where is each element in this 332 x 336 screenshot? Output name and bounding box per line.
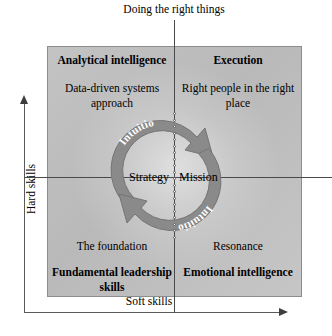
spine-dot bbox=[173, 138, 176, 141]
spine-dot bbox=[173, 184, 176, 187]
spine-dot bbox=[173, 216, 176, 219]
spine-dot bbox=[173, 203, 176, 206]
spine-dot bbox=[173, 190, 176, 193]
y-axis-label: Hard skills bbox=[25, 144, 37, 234]
quadrant-top-left-description: Data-driven systems approach bbox=[50, 81, 174, 112]
quadrant-top-right-title: Execution bbox=[176, 53, 300, 69]
spine-dot bbox=[173, 119, 176, 122]
quadrant-top-right: Execution Right people in the right plac… bbox=[176, 53, 300, 112]
spine-dot bbox=[173, 223, 176, 226]
x-axis-arrow-icon bbox=[279, 308, 288, 316]
spine-dot bbox=[173, 171, 176, 174]
spine-dot bbox=[173, 132, 176, 135]
spine-dot bbox=[173, 145, 176, 148]
spine-dot bbox=[173, 125, 176, 128]
spine-dot bbox=[173, 197, 176, 200]
dotted-spine bbox=[170, 112, 179, 239]
top-caption: Doing the right things bbox=[89, 3, 259, 15]
spine-dot bbox=[173, 151, 176, 154]
spine-dot bbox=[173, 112, 176, 115]
spine-dot bbox=[173, 158, 176, 161]
spine-dot bbox=[173, 236, 176, 239]
cycle-arrow-upper bbox=[111, 121, 213, 203]
diagram-canvas: Doing the right things Hard skills Soft … bbox=[0, 0, 332, 336]
quadrant-bottom-right-description: Resonance bbox=[176, 239, 300, 255]
x-axis-line bbox=[24, 312, 280, 313]
quadrant-bottom-left: The foundation Fundamental leadership sk… bbox=[50, 239, 174, 296]
quadrant-bottom-right-title: Emotional intelligence bbox=[176, 265, 300, 281]
quadrant-top-left-title: Analytical intelligence bbox=[50, 53, 174, 69]
quadrant-bottom-right: Resonance Emotional intelligence bbox=[176, 239, 300, 280]
arc-label-upper: Intuition bbox=[101, 110, 155, 147]
spine-dot bbox=[173, 177, 176, 180]
quadrant-top-left: Analytical intelligence Data-driven syst… bbox=[50, 53, 174, 112]
spine-dot bbox=[173, 164, 176, 167]
y-axis-arrow-icon bbox=[20, 95, 28, 104]
quadrant-bottom-left-title: Fundamental leadership skills bbox=[50, 265, 174, 296]
center-label-mission: Mission bbox=[179, 170, 245, 185]
spine-dot bbox=[173, 210, 176, 213]
center-label-strategy: Strategy bbox=[103, 170, 169, 185]
quadrant-top-right-description: Right people in the right place bbox=[176, 81, 300, 112]
spine-dot bbox=[173, 229, 176, 232]
quadrant-bottom-left-description: The foundation bbox=[50, 239, 174, 255]
